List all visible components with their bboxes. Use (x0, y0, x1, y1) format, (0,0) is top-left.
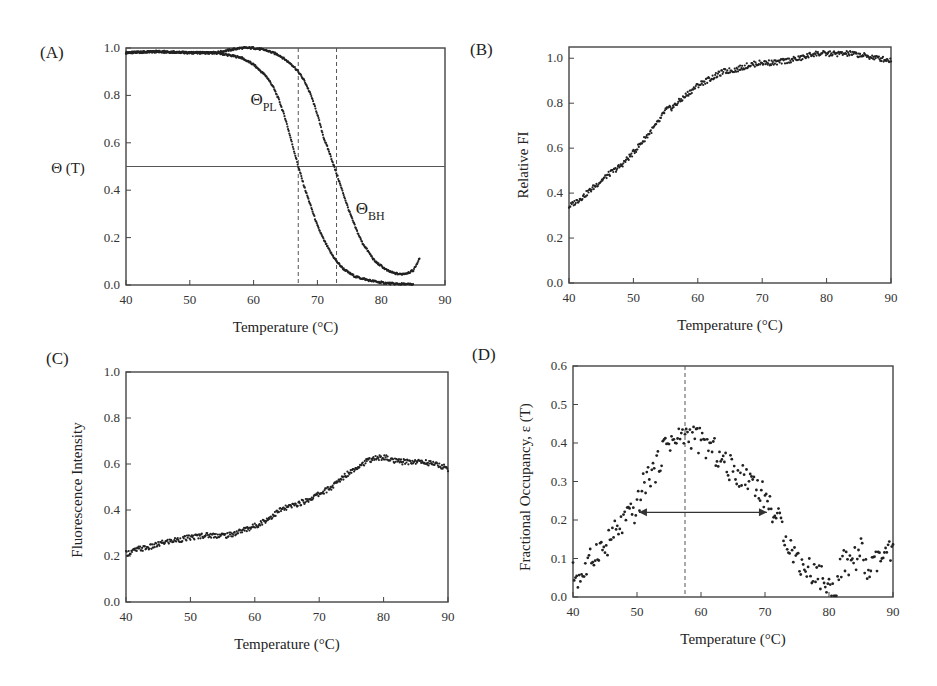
y-axis-title: Θ (T) (51, 160, 85, 177)
data-series (125, 454, 449, 557)
y-tick-label: 1.0 (104, 40, 120, 55)
panel-b: 4050607080900.00.20.40.60.81.0Temperatur… (470, 40, 898, 334)
x-tick-label: 90 (887, 604, 900, 619)
x-tick-label: 90 (439, 292, 452, 307)
y-tick-label: 0.4 (547, 185, 564, 200)
y-axis-title: Fluorescence Intensity (69, 422, 85, 558)
plot-frame (573, 366, 893, 597)
panel-d: 4050607080900.00.10.20.30.40.50.6Tempera… (472, 345, 900, 648)
x-axis-title: Temperature (°C) (233, 319, 338, 336)
x-tick-label: 50 (631, 604, 644, 619)
x-tick-label: 90 (442, 609, 455, 624)
y-tick-label: 0.4 (104, 502, 121, 517)
x-tick-label: 80 (823, 604, 836, 619)
y-tick-label: 0.1 (551, 551, 567, 566)
x-tick-label: 90 (885, 290, 898, 305)
x-tick-label: 60 (695, 604, 708, 619)
x-tick-label: 60 (691, 290, 704, 305)
x-tick-label: 70 (311, 292, 324, 307)
y-tick-label: 0.6 (551, 358, 568, 373)
y-tick-label: 0.3 (551, 474, 567, 489)
y-axis-title: Relative FI (515, 131, 531, 198)
y-tick-label: 0.8 (104, 410, 120, 425)
x-tick-label: 70 (759, 604, 772, 619)
panel-label: (C) (46, 349, 69, 368)
x-axis-title: Temperature (°C) (677, 317, 782, 334)
y-tick-label: 0.2 (547, 230, 563, 245)
y-tick-label: 0.0 (104, 594, 120, 609)
x-tick-label: 60 (248, 609, 261, 624)
data-series (125, 50, 414, 286)
y-tick-label: 0.6 (547, 140, 564, 155)
y-tick-label: 0.2 (104, 548, 120, 563)
y-tick-label: 0.6 (104, 135, 121, 150)
data-series (125, 46, 421, 276)
x-tick-label: 50 (183, 292, 196, 307)
arrowhead-right-icon (759, 508, 767, 516)
panel-label: (B) (470, 40, 493, 59)
panel-c: 4050607080900.00.20.40.60.81.0Temperatur… (46, 349, 455, 653)
y-tick-label: 0.0 (104, 277, 120, 292)
x-tick-label: 60 (247, 292, 260, 307)
x-tick-label: 70 (313, 609, 326, 624)
y-tick-label: 0.8 (547, 95, 563, 110)
panel-a: 4050607080900.00.20.40.60.81.0Temperatur… (40, 40, 452, 336)
x-tick-label: 80 (820, 290, 833, 305)
data-series (572, 426, 895, 598)
x-tick-label: 50 (184, 609, 197, 624)
x-tick-label: 70 (756, 290, 769, 305)
figure-canvas: 4050607080900.00.20.40.60.81.0Temperatur… (0, 0, 937, 686)
y-tick-label: 0.8 (104, 87, 120, 102)
x-tick-label: 40 (563, 290, 576, 305)
x-tick-label: 40 (120, 292, 133, 307)
x-axis-title: Temperature (°C) (234, 636, 339, 653)
x-tick-label: 40 (567, 604, 580, 619)
x-axis-title: Temperature (°C) (680, 631, 785, 648)
x-tick-label: 80 (377, 609, 390, 624)
y-tick-label: 1.0 (547, 50, 563, 65)
y-tick-label: 1.0 (104, 364, 120, 379)
y-tick-label: 0.4 (104, 182, 121, 197)
curve-label: ΘBH (356, 199, 385, 223)
y-tick-label: 0.5 (551, 397, 567, 412)
y-axis-title: Fractional Occupancy, ε (T) (517, 403, 534, 571)
panel-label: (A) (40, 43, 64, 62)
y-tick-label: 0.0 (547, 275, 563, 290)
curve-label: ΘPL (250, 90, 276, 114)
y-tick-label: 0.2 (104, 230, 120, 245)
y-tick-label: 0.0 (551, 589, 567, 604)
x-tick-label: 40 (120, 609, 133, 624)
y-tick-label: 0.2 (551, 512, 567, 527)
data-series (568, 50, 892, 209)
x-tick-label: 80 (375, 292, 388, 307)
plot-frame (569, 47, 891, 283)
x-tick-label: 50 (627, 290, 640, 305)
panel-label: (D) (472, 345, 496, 364)
y-tick-label: 0.4 (551, 435, 568, 450)
plot-frame (126, 372, 448, 602)
y-tick-label: 0.6 (104, 456, 121, 471)
